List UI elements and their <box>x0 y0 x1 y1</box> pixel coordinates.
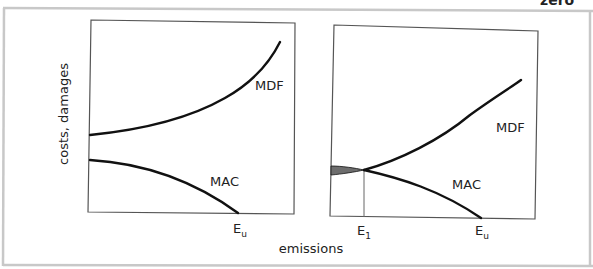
x-axis-label: emissions <box>279 241 344 256</box>
left-panel: MDF MAC Eu <box>88 20 295 239</box>
left-mdf-curve <box>90 42 280 135</box>
figure: zero costs, damages MDF MAC Eu MDF MAC E… <box>0 0 593 269</box>
shaded-wedge <box>331 166 364 175</box>
left-mac-label: MAC <box>210 174 239 189</box>
y-axis-label: costs, damages <box>56 63 71 165</box>
frame-bottom-rule <box>3 265 593 266</box>
right-panel: MDF MAC E1 Eu <box>330 25 538 241</box>
right-mdf-label: MDF <box>496 120 525 135</box>
clipped-title: zero <box>540 0 575 8</box>
right-mac-label: MAC <box>452 177 481 192</box>
left-tick-eu: Eu <box>233 221 247 239</box>
right-tick-e1: E1 <box>357 223 371 241</box>
left-mdf-label: MDF <box>255 78 284 93</box>
right-tick-eu: Eu <box>475 223 489 241</box>
frame-left-rule <box>3 8 4 266</box>
frame-top-rule <box>3 8 593 11</box>
